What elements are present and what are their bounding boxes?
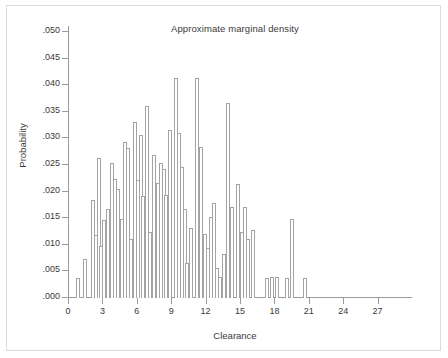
histogram-bar [270, 277, 274, 298]
histogram-bar [246, 239, 250, 298]
y-axis-tick-label: .010 [26, 238, 60, 248]
y-axis-tick-label: .045 [26, 52, 60, 62]
histogram-bar [303, 278, 307, 298]
histogram-bar [285, 278, 289, 298]
y-axis-tick-label: .015 [26, 211, 60, 221]
x-axis-tick-label: 24 [331, 306, 355, 316]
x-axis-tick-mark [240, 298, 241, 304]
histogram-bar [83, 259, 87, 298]
x-axis-tick-label: 9 [159, 306, 183, 316]
plot-area [68, 20, 412, 298]
y-axis-tick-label-wrap: .015 [22, 211, 60, 222]
histogram-bar [251, 230, 255, 298]
histogram-bar [275, 277, 279, 298]
y-axis-tick-label-wrap: .050 [22, 25, 60, 36]
histogram-bar [290, 219, 294, 298]
y-axis-tick-label-wrap: .045 [22, 52, 60, 63]
histogram-bar [230, 207, 234, 299]
y-axis-tick-label: .020 [26, 185, 60, 195]
y-axis-tick-label-wrap: .020 [22, 185, 60, 196]
x-axis-tick-mark [206, 298, 207, 304]
x-axis-tick-mark [378, 298, 379, 304]
y-axis-tick-label: .035 [26, 105, 60, 115]
y-axis-tick-label: .040 [26, 78, 60, 88]
x-axis-tick-label: 3 [90, 306, 114, 316]
x-axis-tick-mark [137, 298, 138, 304]
x-axis-tick-label: 12 [194, 306, 218, 316]
y-axis-tick-label-wrap: .035 [22, 105, 60, 116]
x-axis-tick-mark [309, 298, 310, 304]
x-axis-tick-label: 18 [262, 306, 286, 316]
x-axis-tick-mark [102, 298, 103, 304]
x-axis-tick-mark [274, 298, 275, 304]
y-axis-tick-label: .025 [26, 158, 60, 168]
y-axis-tick-label: .050 [26, 25, 60, 35]
y-axis-tick-label: .000 [26, 291, 60, 301]
y-axis-tick-label: .030 [26, 131, 60, 141]
histogram-bar [226, 103, 230, 298]
y-axis-tick-label-wrap: .005 [22, 264, 60, 275]
x-axis-tick-label: 0 [56, 306, 80, 316]
histogram-bar [189, 228, 193, 298]
x-axis-tick-mark [343, 298, 344, 304]
histogram-bar [76, 278, 80, 298]
histogram-bar [168, 130, 172, 298]
x-axis-tick-mark [171, 298, 172, 304]
y-axis-tick-label-wrap: .010 [22, 238, 60, 249]
y-axis-tick-label-wrap: .025 [22, 158, 60, 169]
x-axis-tick-label: 15 [228, 306, 252, 316]
x-axis-tick-label: 27 [366, 306, 390, 316]
y-axis-tick-label-wrap: .040 [22, 78, 60, 89]
y-axis-tick-label-wrap: .000 [22, 291, 60, 302]
x-axis-tick-label: 6 [125, 306, 149, 316]
x-axis-tick-mark [68, 298, 69, 304]
x-axis-label: Clearance [150, 330, 320, 341]
histogram-bar [265, 278, 269, 298]
y-axis-tick-label: .005 [26, 264, 60, 274]
y-axis-tick-label-wrap: .030 [22, 131, 60, 142]
chart-figure: Approximate marginal density Probability… [0, 0, 448, 358]
x-axis-tick-label: 21 [297, 306, 321, 316]
